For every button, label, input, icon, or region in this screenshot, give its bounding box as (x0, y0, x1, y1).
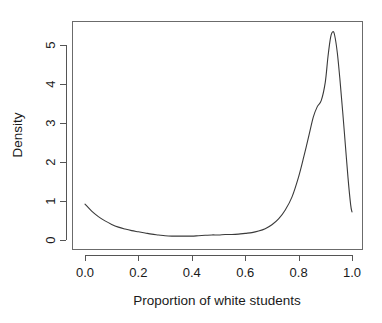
y-tick-label: 2 (43, 158, 58, 165)
y-tick-label: 1 (43, 197, 58, 204)
x-tick-label: 0.6 (236, 265, 254, 280)
x-tick-label: 1.0 (343, 265, 361, 280)
x-axis-title: Proportion of white students (133, 293, 301, 308)
y-tick-label: 5 (43, 41, 58, 48)
y-tick-label: 0 (43, 236, 58, 243)
y-axis-title: Density (10, 112, 25, 157)
x-tick-label: 0.2 (129, 265, 147, 280)
x-tick-label: 0.0 (76, 265, 94, 280)
x-tick-label: 0.8 (290, 265, 308, 280)
plot-canvas: 0.00.20.40.60.81.0 012345 Proportion of … (0, 0, 382, 323)
x-tick-label: 0.4 (183, 265, 201, 280)
y-tick-label: 3 (43, 119, 58, 126)
density-plot-figure: 0.00.20.40.60.81.0 012345 Proportion of … (0, 0, 382, 323)
y-tick-label: 4 (43, 80, 58, 87)
